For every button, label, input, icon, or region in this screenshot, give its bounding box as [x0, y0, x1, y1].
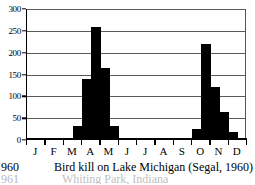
x-tick-mark: [44, 140, 45, 145]
bird-kill-bar-chart: 300250200150100500 JFMAMJJASOND 960 Bird…: [0, 0, 255, 185]
y-tick-label: 300: [8, 5, 21, 14]
bar-series: [27, 9, 245, 140]
x-tick-mark: [191, 140, 192, 145]
x-tick-label: J: [143, 145, 147, 158]
y-tick-mark: [22, 52, 26, 53]
x-tick-label: D: [233, 145, 241, 158]
y-tick-mark: [22, 30, 26, 31]
y-tick-mark: [22, 8, 26, 9]
y-tick-mark: [22, 96, 26, 97]
x-tick-mark: [136, 140, 137, 145]
y-tick-label: 50: [13, 114, 21, 123]
y-tick-label: 150: [8, 70, 21, 79]
bar: [210, 87, 220, 140]
caption-second-line-partial: Whiting Park, Indiana: [62, 173, 168, 184]
x-tick-label: S: [179, 145, 185, 158]
x-tick-label: A: [86, 145, 94, 158]
bar: [100, 68, 110, 140]
y-axis: 300250200150100500: [0, 9, 24, 140]
x-tick-label: M: [104, 145, 114, 158]
y-tick-mark: [22, 74, 26, 75]
x-tick-mark: [118, 140, 119, 145]
y-tick-mark: [22, 139, 26, 140]
caption-left-number-partial: 961: [1, 173, 19, 184]
x-tick-mark: [63, 140, 64, 145]
x-axis-labels: JFMAMJJASOND: [26, 145, 246, 159]
bar: [220, 112, 230, 140]
x-tick-mark: [246, 140, 247, 145]
bar: [82, 79, 92, 140]
x-tick-label: J: [33, 145, 37, 158]
x-tick-mark: [173, 140, 174, 145]
x-tick-mark: [99, 140, 100, 145]
x-tick-mark: [154, 140, 155, 145]
y-tick-mark: [22, 117, 26, 118]
x-tick-label: M: [67, 145, 77, 158]
x-tick-mark: [26, 140, 27, 145]
x-tick-mark: [81, 140, 82, 145]
plot-area: [26, 9, 246, 140]
x-tick-label: J: [125, 145, 129, 158]
x-tick-label: N: [215, 145, 223, 158]
caption-block: 960 Bird kill on Lake Michigan (Segal, 1…: [0, 161, 255, 185]
x-tick-label: F: [50, 145, 56, 158]
x-tick-label: A: [160, 145, 168, 158]
y-tick-label: 200: [8, 48, 21, 57]
bar: [201, 44, 211, 140]
y-tick-label: 250: [8, 26, 21, 35]
y-tick-label: 0: [17, 136, 21, 145]
bar: [91, 27, 101, 140]
plot-frame: [26, 9, 246, 140]
x-tick-label: O: [196, 145, 204, 158]
x-tick-mark: [209, 140, 210, 145]
y-tick-label: 100: [8, 92, 21, 101]
x-tick-mark: [228, 140, 229, 145]
